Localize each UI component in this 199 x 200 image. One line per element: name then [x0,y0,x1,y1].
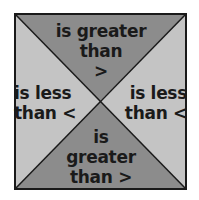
right-triangle-label: is less than < [117,83,187,123]
top-label-line-3: > [55,61,147,81]
left-label-line-2: than < [14,103,84,123]
comparison-square-diagram: is greater than > is less than < is less… [0,0,199,200]
left-triangle-label: is less than < [14,83,84,123]
bottom-label-line-1: is [55,127,147,147]
right-label-line-1: is less [117,83,187,103]
top-label-line-1: is greater [55,21,147,41]
bottom-label-line-2: greater [55,147,147,167]
top-triangle-label: is greater than > [55,21,147,81]
left-label-line-1: is less [14,83,84,103]
top-label-line-2: than [55,41,147,61]
bottom-triangle-label: is greater than > [55,127,147,187]
right-label-line-2: than < [117,103,187,123]
bottom-label-line-3: than > [55,167,147,187]
